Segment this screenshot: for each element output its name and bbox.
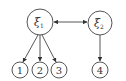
observed-node-3: 3 bbox=[51, 62, 67, 78]
latent-node-xi2: ξ2 bbox=[88, 11, 112, 35]
edge-xi1-n3 bbox=[42, 35, 56, 62]
edge-xi1-n1 bbox=[23, 35, 38, 62]
observed-node-1: 1 bbox=[12, 62, 28, 78]
node-subscript: 2 bbox=[100, 23, 104, 30]
factor-diagram: ξ1 ξ2 1 2 3 4 bbox=[0, 0, 126, 81]
observed-node-4: 4 bbox=[92, 62, 108, 78]
node-label: 3 bbox=[56, 65, 62, 76]
node-subscript: 1 bbox=[40, 22, 44, 29]
node-label: 4 bbox=[97, 65, 103, 76]
node-label: 1 bbox=[17, 65, 23, 76]
node-label: 2 bbox=[37, 65, 43, 76]
observed-node-2: 2 bbox=[32, 62, 48, 78]
latent-node-xi1: ξ1 bbox=[27, 9, 53, 35]
